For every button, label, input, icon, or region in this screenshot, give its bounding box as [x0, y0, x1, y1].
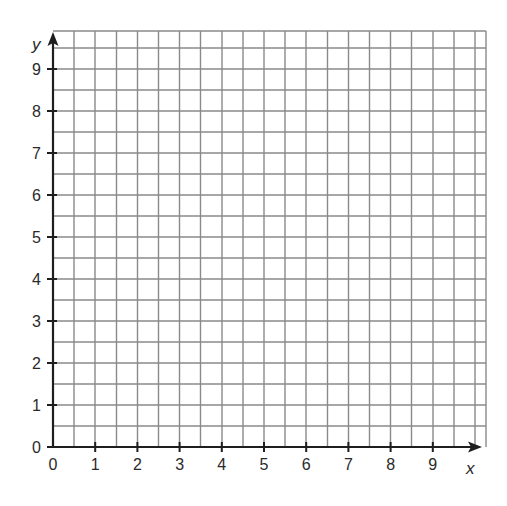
x-tick-label: 0: [49, 456, 58, 473]
x-tick-label: 6: [302, 456, 311, 473]
x-tick-label: 9: [428, 456, 437, 473]
y-tick-label: 7: [32, 145, 41, 162]
x-tick-label: 2: [133, 456, 142, 473]
x-tick-label: 5: [260, 456, 269, 473]
axis-labels: x y 01234567890123456789: [31, 35, 475, 478]
y-tick-label: 5: [32, 229, 41, 246]
y-tick-label: 1: [32, 397, 41, 414]
axis-ticks: [47, 69, 433, 452]
grid-lines: [53, 31, 486, 447]
x-axis-label: x: [465, 459, 475, 478]
coordinate-grid: x y 01234567890123456789: [0, 0, 507, 506]
y-tick-label: 0: [32, 439, 41, 456]
x-tick-label: 8: [386, 456, 395, 473]
axes: [48, 32, 483, 453]
y-axis-label: y: [31, 35, 42, 54]
x-tick-label: 1: [91, 456, 100, 473]
y-tick-label: 3: [32, 313, 41, 330]
y-tick-label: 8: [32, 103, 41, 120]
y-tick-label: 4: [32, 271, 41, 288]
y-tick-label: 2: [32, 355, 41, 372]
y-tick-label: 6: [32, 187, 41, 204]
x-tick-label: 7: [344, 456, 353, 473]
x-tick-label: 3: [175, 456, 184, 473]
x-tick-label: 4: [217, 456, 226, 473]
y-tick-label: 9: [32, 61, 41, 78]
